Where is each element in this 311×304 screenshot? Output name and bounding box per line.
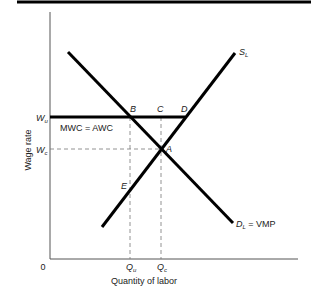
qc-tick-label: Qc [157,262,167,273]
supply-curve-label: SL [239,47,248,58]
supply-curve [102,53,235,227]
svg-text:Wc: Wc [36,145,48,156]
labor-market-diagram: Wage rate Quantity of labor 0 Wu Wc Qu Q… [0,0,311,304]
wc-tick-label: Wc [36,145,48,156]
qu-tick-label: Qu [126,262,137,273]
svg-text:DL = VMP: DL = VMP [236,219,276,230]
point-c-label: C [157,104,164,114]
point-a-label: A [165,144,172,154]
svg-text:Qc: Qc [157,262,167,273]
point-d-label: D [181,104,188,114]
point-b-label: B [130,104,136,114]
y-axis-label: Wage rate [23,129,33,170]
wu-tick-label: Wu [36,113,49,124]
mwc-awc-label: MWC = AWC [60,123,113,133]
svg-text:Wu: Wu [36,113,49,124]
svg-text:Qu: Qu [126,262,137,273]
point-e-label: E [121,181,128,191]
demand-curve-label: DL = VMP [236,219,276,230]
demand-curve [68,52,233,223]
x-axis-label: Quantity of labor [111,276,177,286]
origin-label: 0 [40,262,45,272]
svg-text:SL: SL [239,47,248,58]
